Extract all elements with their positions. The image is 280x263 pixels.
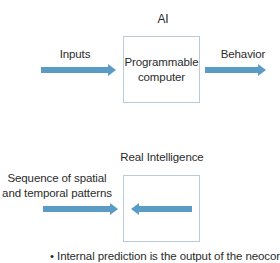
bullet-text: Internal prediction is the output of the… bbox=[57, 250, 280, 262]
behavior-arrow bbox=[205, 64, 267, 76]
bullet-symbol: • bbox=[50, 250, 54, 262]
patterns-arrow bbox=[43, 203, 119, 215]
ai-section-title: AI bbox=[143, 12, 183, 26]
patterns-label-line2: and temporal patterns bbox=[2, 186, 112, 200]
box-label-line2: computer bbox=[123, 70, 200, 84]
behavior-label: Behavior bbox=[208, 47, 278, 61]
real-intelligence-title: Real Intelligence bbox=[112, 150, 212, 164]
box-label-line1: Programmable bbox=[123, 55, 200, 69]
inputs-label: Inputs bbox=[45, 47, 105, 61]
internal-prediction-arrow bbox=[131, 203, 193, 215]
inputs-arrow bbox=[41, 64, 117, 76]
patterns-label-line1: Sequence of spatial bbox=[2, 171, 112, 185]
bullet-point: • Internal prediction is the output of t… bbox=[50, 249, 280, 263]
